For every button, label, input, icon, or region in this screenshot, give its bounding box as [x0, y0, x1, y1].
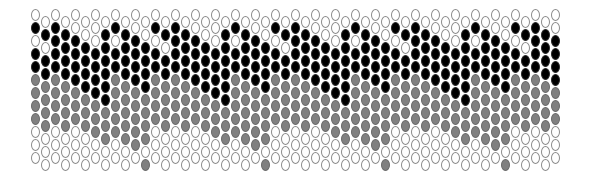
- bead-white: [501, 16, 510, 28]
- bead-black: [91, 61, 100, 73]
- bead-black: [491, 61, 500, 73]
- bead-gray: [151, 74, 160, 86]
- bead-white: [241, 159, 250, 171]
- bead-gray: [231, 74, 240, 86]
- bead-gray: [91, 113, 100, 125]
- bead-gray: [41, 81, 50, 93]
- bead-white: [511, 9, 520, 21]
- bead-black: [31, 22, 40, 34]
- bead-black: [351, 22, 360, 34]
- bead-white: [121, 146, 130, 158]
- bead-gray: [351, 87, 360, 99]
- bead-black: [71, 74, 80, 86]
- bead-gray: [341, 107, 350, 119]
- bead-black: [191, 61, 200, 73]
- bead-white: [201, 146, 210, 158]
- bead-gray: [291, 74, 300, 86]
- bead-black: [291, 61, 300, 73]
- bead-black: [151, 61, 160, 73]
- bead-black: [461, 81, 470, 93]
- bead-black: [341, 55, 350, 67]
- bead-gray: [81, 94, 90, 106]
- bead-white: [451, 35, 460, 47]
- bead-gray: [331, 100, 340, 112]
- bead-white: [371, 152, 380, 164]
- bead-black: [411, 48, 420, 60]
- bead-gray: [371, 87, 380, 99]
- bead-gray: [141, 120, 150, 132]
- bead-gray: [511, 113, 520, 125]
- bead-black: [241, 68, 250, 80]
- bead-white: [351, 9, 360, 21]
- bead-white: [171, 9, 180, 21]
- bead-gray: [471, 74, 480, 86]
- bead-gray: [301, 120, 310, 132]
- bead-black: [531, 61, 540, 73]
- bead-white: [161, 133, 170, 145]
- bead-black: [191, 74, 200, 86]
- bead-white: [261, 146, 270, 158]
- bead-white: [321, 159, 330, 171]
- bead-white: [531, 126, 540, 138]
- bead-black: [501, 81, 510, 93]
- bead-black: [141, 81, 150, 93]
- bead-black: [251, 74, 260, 86]
- bead-white: [291, 9, 300, 21]
- bead-black: [81, 81, 90, 93]
- bead-white: [151, 9, 160, 21]
- bead-gray: [241, 107, 250, 119]
- bead-white: [291, 139, 300, 151]
- bead-white: [401, 42, 410, 54]
- bead-black: [101, 55, 110, 67]
- bead-gray: [71, 87, 80, 99]
- bead-gray: [131, 139, 140, 151]
- bead-white: [311, 139, 320, 151]
- bead-white: [51, 126, 60, 138]
- bead-white: [531, 152, 540, 164]
- bead-gray: [291, 113, 300, 125]
- bead-white: [501, 146, 510, 158]
- bead-gray: [271, 100, 280, 112]
- bead-gray: [511, 100, 520, 112]
- bead-black: [341, 81, 350, 93]
- bead-gray: [121, 120, 130, 132]
- bead-gray: [381, 133, 390, 145]
- bead-gray: [261, 107, 270, 119]
- bead-gray: [201, 107, 210, 119]
- bead-white: [461, 159, 470, 171]
- bead-white: [231, 9, 240, 21]
- bead-black: [41, 55, 50, 67]
- bead-white: [41, 42, 50, 54]
- bead-gray: [521, 120, 530, 132]
- bead-gray: [171, 74, 180, 86]
- bead-gray: [451, 113, 460, 125]
- bead-black: [271, 61, 280, 73]
- bead-white: [191, 9, 200, 21]
- bead-black: [61, 42, 70, 54]
- bead-black: [61, 55, 70, 67]
- bead-black: [91, 48, 100, 60]
- bead-white: [291, 152, 300, 164]
- bead-gray: [341, 120, 350, 132]
- bead-black: [321, 55, 330, 67]
- bead-white: [541, 159, 550, 171]
- bead-gray: [431, 87, 440, 99]
- bead-black: [171, 48, 180, 60]
- bead-white: [551, 9, 560, 21]
- bead-white: [121, 159, 130, 171]
- bead-white: [451, 9, 460, 21]
- bead-gray: [331, 113, 340, 125]
- bead-black: [481, 68, 490, 80]
- bead-white: [351, 35, 360, 47]
- bead-black: [521, 29, 530, 41]
- bead-black: [171, 22, 180, 34]
- bead-gray: [451, 100, 460, 112]
- bead-gray: [311, 100, 320, 112]
- bead-white: [331, 152, 340, 164]
- bead-white: [201, 159, 210, 171]
- bead-black: [461, 29, 470, 41]
- bead-black: [131, 35, 140, 47]
- bead-white: [81, 133, 90, 145]
- bead-white: [471, 152, 480, 164]
- bead-pattern-grid: [0, 0, 589, 176]
